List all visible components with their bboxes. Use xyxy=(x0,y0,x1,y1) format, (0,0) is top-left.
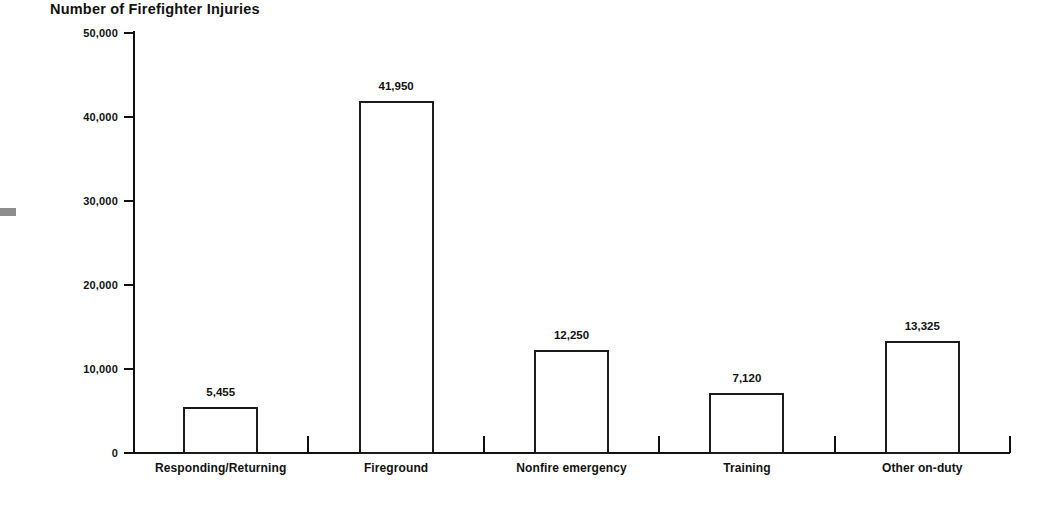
bar-value-label: 13,325 xyxy=(905,320,940,332)
bar xyxy=(709,393,784,454)
bar xyxy=(885,341,960,454)
bar-value-label: 5,455 xyxy=(206,386,235,398)
chart-title: Number of Firefighter Injuries xyxy=(50,1,260,17)
x-axis-tick xyxy=(483,436,485,453)
x-axis-category-label: Nonfire emergency xyxy=(516,461,626,475)
bar xyxy=(534,350,609,454)
y-axis-tick-label-wrap: 0 xyxy=(0,453,118,454)
y-axis-tick-label-wrap: 10,000 xyxy=(0,369,118,370)
y-axis-tick-label-wrap: 40,000 xyxy=(0,117,118,118)
y-axis-tick-label: 50,000 xyxy=(83,27,118,39)
x-axis-category-label: Training xyxy=(723,461,770,475)
x-axis-category-label: Fireground xyxy=(364,461,428,475)
y-axis-tick-label: 10,000 xyxy=(83,363,118,375)
bar-value-label: 12,250 xyxy=(554,329,589,341)
y-axis-tick xyxy=(124,32,133,34)
x-axis-tick xyxy=(1009,436,1011,453)
bar xyxy=(183,407,258,454)
y-axis-tick xyxy=(124,452,133,454)
y-axis-tick xyxy=(124,368,133,370)
y-axis-tick-label-wrap: 20,000 xyxy=(0,285,118,286)
x-axis-category-label: Responding/Returning xyxy=(155,461,286,475)
y-axis-tick-label-wrap: 30,000 xyxy=(0,201,118,202)
x-axis-category-label: Other on-duty xyxy=(882,461,963,475)
y-axis-tick xyxy=(124,284,133,286)
y-axis-tick-label: 30,000 xyxy=(83,195,118,207)
y-axis-tick-label: 40,000 xyxy=(83,111,118,123)
x-axis-tick xyxy=(307,436,309,453)
y-axis-line xyxy=(133,31,135,454)
y-axis-tick-label: 20,000 xyxy=(83,279,118,291)
y-axis-tick xyxy=(124,116,133,118)
x-axis-tick xyxy=(834,436,836,453)
bar-value-label: 41,950 xyxy=(379,80,414,92)
x-axis-tick xyxy=(658,436,660,453)
y-axis-tick-label: 0 xyxy=(112,447,118,459)
bar-chart: Number of Firefighter Injuries 010,00020… xyxy=(0,0,1059,512)
y-axis-tick-label-wrap: 50,000 xyxy=(0,33,118,34)
scan-artifact-mark xyxy=(0,208,16,216)
bar-value-label: 7,120 xyxy=(733,372,762,384)
y-axis-tick xyxy=(124,200,133,202)
bar xyxy=(359,101,434,454)
